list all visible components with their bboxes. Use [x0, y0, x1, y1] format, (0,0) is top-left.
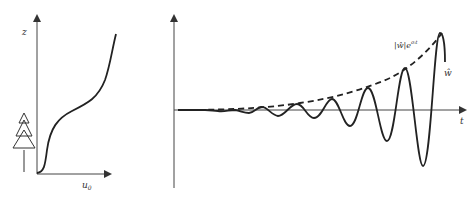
growth-panel: t |ŵ|eσᵢt ŵ — [174, 16, 465, 188]
velocity-profile-panel: z u0 — [13, 16, 116, 191]
tree-icon — [13, 113, 35, 172]
diagram-canvas: z u0 t |ŵ|eσᵢt ŵ — [0, 0, 476, 198]
envelope-label: |ŵ|eσᵢt — [394, 39, 418, 50]
oscillating-wave — [178, 33, 445, 166]
t-axis-label: t — [460, 116, 464, 126]
z-axis-label: z — [21, 27, 27, 37]
velocity-profile-curve — [37, 34, 116, 173]
u0-axis-label: u0 — [82, 180, 92, 191]
wave-label: ŵ — [444, 68, 452, 78]
